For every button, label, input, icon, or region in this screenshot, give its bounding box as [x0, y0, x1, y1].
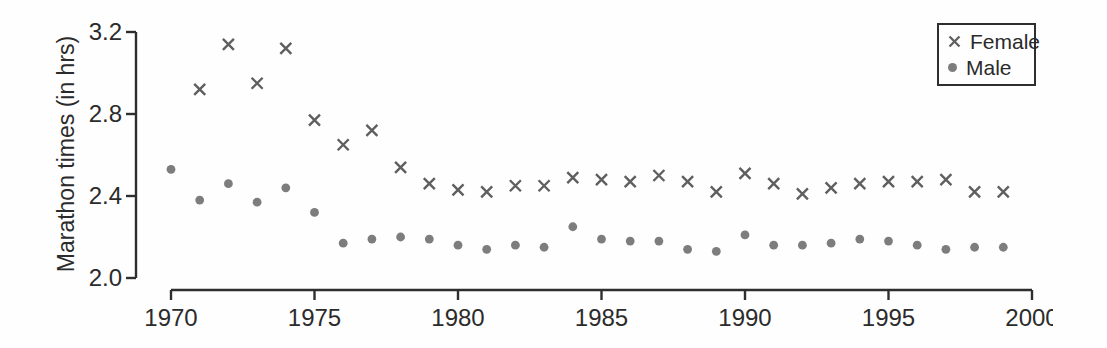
male-data-marker: [655, 237, 664, 246]
male-data-marker: [999, 243, 1008, 252]
female-data-marker: [510, 180, 521, 191]
male-data-marker: [769, 241, 778, 250]
male-data-marker: [741, 231, 750, 240]
female-data-marker: [252, 78, 263, 89]
male-data-marker: [339, 239, 348, 248]
legend-item-male: Male: [948, 57, 1034, 78]
male-data-marker: [281, 183, 290, 192]
legend-label-male: Male: [966, 57, 1012, 78]
female-data-marker: [797, 188, 808, 199]
female-data-marker: [338, 139, 349, 150]
female-data-marker: [969, 186, 980, 197]
male-data-marker: [884, 237, 893, 246]
dot-marker-icon: [948, 63, 957, 72]
female-data-marker: [309, 115, 320, 126]
y-axis-title: Marathon times (in hrs): [53, 36, 80, 272]
female-data-marker: [539, 180, 550, 191]
female-data-marker: [395, 162, 406, 173]
male-data-marker: [368, 235, 377, 244]
male-data-marker: [683, 245, 692, 254]
male-data-marker: [712, 247, 721, 256]
male-data-marker: [224, 179, 233, 188]
female-data-marker: [711, 186, 722, 197]
female-data-marker: [625, 176, 636, 187]
x-tick-label: 1985: [575, 304, 628, 331]
female-data-marker: [280, 43, 291, 54]
legend: Female Male: [937, 23, 1036, 86]
male-data-marker: [970, 243, 979, 252]
female-data-marker: [768, 178, 779, 189]
female-data-marker: [854, 178, 865, 189]
x-tick-label: 1995: [862, 304, 915, 331]
x-tick-label: 2000: [1005, 304, 1058, 331]
female-data-marker: [998, 186, 1009, 197]
female-data-marker: [453, 184, 464, 195]
female-data-marker: [912, 176, 923, 187]
male-data-marker: [396, 233, 405, 242]
female-data-marker: [366, 125, 377, 136]
male-data-marker: [167, 165, 176, 174]
x-tick-label: 1990: [718, 304, 771, 331]
male-data-marker: [597, 235, 606, 244]
female-data-marker: [653, 170, 664, 181]
male-data-marker: [454, 241, 463, 250]
x-tick-label: 1975: [288, 304, 341, 331]
x-tick-label: 1980: [431, 304, 484, 331]
male-data-marker: [942, 245, 951, 254]
female-data-marker: [883, 176, 894, 187]
male-data-marker: [511, 241, 520, 250]
male-data-marker: [855, 235, 864, 244]
female-data-marker: [940, 174, 951, 185]
male-data-marker: [425, 235, 434, 244]
male-data-marker: [568, 222, 577, 231]
male-data-marker: [310, 208, 319, 217]
y-tick-label: 3.2: [89, 18, 122, 45]
female-data-marker: [740, 168, 751, 179]
x-marker-icon: [948, 35, 961, 48]
male-data-marker: [195, 196, 204, 205]
y-tick-label: 2.4: [89, 182, 122, 209]
male-data-marker: [913, 241, 922, 250]
male-data-marker: [253, 198, 262, 207]
figure-edge-crop: [1053, 302, 1107, 344]
female-data-marker: [194, 84, 205, 95]
female-data-marker: [682, 176, 693, 187]
male-data-marker: [540, 243, 549, 252]
y-tick-label: 2.0: [89, 264, 122, 291]
female-data-marker: [481, 186, 492, 197]
male-data-marker: [827, 239, 836, 248]
female-data-marker: [223, 39, 234, 50]
female-data-marker: [424, 178, 435, 189]
legend-label-female: Female: [970, 31, 1040, 52]
legend-item-female: Female: [948, 31, 1034, 52]
male-data-marker: [482, 245, 491, 254]
female-data-marker: [596, 174, 607, 185]
male-data-marker: [626, 237, 635, 246]
male-data-marker: [798, 241, 807, 250]
female-data-marker: [567, 172, 578, 183]
y-tick-label: 2.8: [89, 100, 122, 127]
marathon-times-scatter-figure: 2.02.42.83.21970197519801985199019952000…: [0, 0, 1107, 348]
female-data-marker: [826, 182, 837, 193]
x-tick-label: 1970: [144, 304, 197, 331]
